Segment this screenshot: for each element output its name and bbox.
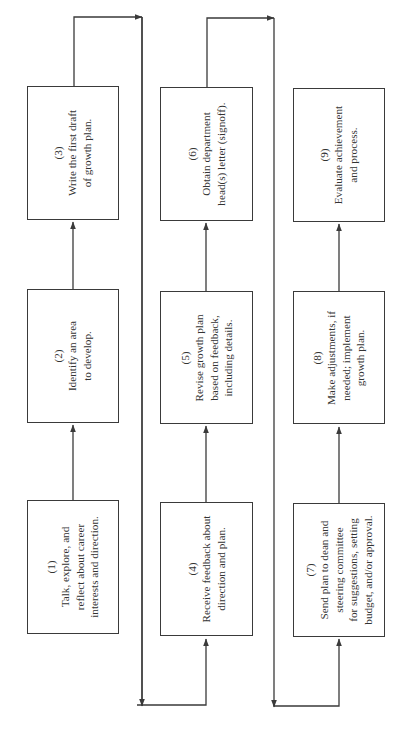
step-line: Receive feedback about bbox=[199, 502, 213, 636]
step-line: Talk, explore, and bbox=[59, 500, 73, 634]
step-8-text: (8) Make adjustments, if needed; impleme… bbox=[310, 291, 368, 425]
arrow-into-7 bbox=[274, 639, 339, 706]
step-line: of growth plan. bbox=[80, 86, 94, 220]
step-line: budget, and/or approval. bbox=[361, 503, 375, 637]
step-5-text: (5) Revise growth plan based on feedback… bbox=[178, 291, 236, 425]
step-line: reflect about career bbox=[73, 500, 87, 634]
step-number: (5) bbox=[178, 291, 192, 425]
step-line: growth plan. bbox=[353, 291, 367, 425]
step-1-box: (1) Talk, explore, and reflect about car… bbox=[27, 500, 119, 634]
step-2-text: (2) Identify an area to develop. bbox=[51, 289, 94, 423]
step-line: based on feedback, bbox=[207, 291, 221, 425]
step-4-box: (4) Receive feedback about direction and… bbox=[160, 502, 253, 636]
step-line: Write the first draft bbox=[66, 86, 80, 220]
step-number: (6) bbox=[185, 87, 199, 221]
step-6-text: (6) Obtain department head(s) letter (si… bbox=[185, 87, 228, 221]
step-line: Send plan to dean and bbox=[317, 503, 331, 637]
step-9-box: (9) Evaluate achievement and process. bbox=[293, 88, 385, 222]
step-number: (1) bbox=[44, 500, 58, 634]
step-3-box: (3) Write the first draft of growth plan… bbox=[27, 86, 119, 220]
arrow-into-4 bbox=[142, 639, 206, 705]
step-number: (8) bbox=[310, 291, 324, 425]
step-7-text: (7) Send plan to dean and steering commi… bbox=[303, 503, 375, 637]
step-line: Make adjustments, if bbox=[325, 291, 339, 425]
step-5-box: (5) Revise growth plan based on feedback… bbox=[160, 291, 253, 424]
step-8-box: (8) Make adjustments, if needed; impleme… bbox=[293, 291, 385, 424]
step-3-text: (3) Write the first draft of growth plan… bbox=[51, 86, 94, 220]
step-line: for suggestions, setting bbox=[346, 503, 360, 637]
loop-3-to-4-down bbox=[137, 17, 142, 705]
step-line: Identify an area bbox=[66, 289, 80, 423]
step-number: (2) bbox=[51, 289, 65, 423]
step-line: to develop. bbox=[80, 289, 94, 423]
step-line: interests and direction. bbox=[87, 500, 101, 634]
step-number: (7) bbox=[303, 503, 317, 637]
step-line: steering committee bbox=[332, 503, 346, 637]
step-line: head(s) letter (signoff). bbox=[214, 87, 228, 221]
step-number: (4) bbox=[185, 502, 199, 636]
growth-plan-flowchart: (1) Talk, explore, and reflect about car… bbox=[0, 0, 404, 736]
step-number: (9) bbox=[317, 88, 331, 222]
arrow-3-exit bbox=[74, 17, 142, 86]
arrow-6-exit bbox=[207, 18, 274, 87]
step-1-text: (1) Talk, explore, and reflect about car… bbox=[44, 500, 102, 634]
step-6-box: (6) Obtain department head(s) letter (si… bbox=[160, 87, 253, 221]
step-number: (3) bbox=[51, 86, 65, 220]
step-line: direction and plan. bbox=[214, 502, 228, 636]
step-line: Obtain department bbox=[199, 87, 213, 221]
step-line: needed; implement bbox=[339, 291, 353, 425]
step-line: Evaluate achievement bbox=[332, 88, 346, 222]
step-9-text: (9) Evaluate achievement and process. bbox=[317, 88, 360, 222]
step-4-text: (4) Receive feedback about direction and… bbox=[185, 502, 228, 636]
step-2-box: (2) Identify an area to develop. bbox=[27, 289, 119, 423]
step-7-box: (7) Send plan to dean and steering commi… bbox=[293, 503, 385, 637]
step-line: Revise growth plan bbox=[192, 291, 206, 425]
step-line: and process. bbox=[346, 88, 360, 222]
step-line: including details. bbox=[221, 291, 235, 425]
